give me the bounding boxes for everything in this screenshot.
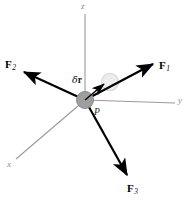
force-label-F2: F2 (5, 59, 16, 72)
displacement-label-delta-r: δr (72, 75, 82, 86)
axis-label-x: x (7, 160, 11, 169)
r-vector-symbol: r (78, 75, 82, 85)
axis-label-y: y (178, 96, 182, 105)
axis-group (16, 14, 175, 159)
force-label-F2-base: F (5, 58, 12, 70)
force-label-F2-subscript: 2 (12, 63, 16, 72)
force-vector-group (24, 64, 153, 175)
force-label-F1-subscript: 1 (166, 64, 170, 73)
force-vector-F1 (85, 64, 153, 100)
force-diagram-figure: z y x P δr F1 F2 F3 (0, 0, 191, 206)
force-label-F3-base: F (127, 182, 134, 194)
force-label-F1: F1 (159, 60, 170, 73)
axis-label-z: z (81, 2, 85, 11)
force-vector-F3 (85, 100, 127, 175)
force-label-F3-subscript: 3 (134, 187, 138, 196)
particle-label-P: P (94, 108, 100, 118)
x-axis-line (16, 100, 85, 159)
diagram-canvas (0, 0, 191, 206)
force-label-F1-base: F (159, 59, 166, 71)
y-axis-line (85, 100, 175, 103)
force-label-F3: F3 (127, 183, 138, 196)
